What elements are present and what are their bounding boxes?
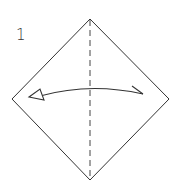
step-number: 1 [16,28,26,43]
origami-step-diagram: 1 [0,0,181,189]
diagram-canvas [0,0,181,189]
